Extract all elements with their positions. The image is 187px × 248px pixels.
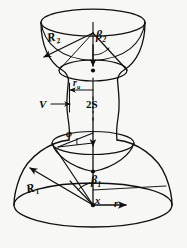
- label-beta1: β1: [91, 174, 101, 186]
- origin-horizontal-reference: [93, 186, 166, 190]
- lower-generator-a: [55, 148, 93, 205]
- label-phi: φ: [65, 129, 72, 140]
- R1-radius-arrow: [30, 168, 93, 205]
- label-R2: R2: [46, 30, 60, 45]
- label-beta2: β2: [96, 29, 106, 41]
- label-R1: R1: [25, 181, 40, 196]
- label-V: V: [39, 99, 46, 110]
- figure-drawing: [0, 0, 187, 248]
- label-r-axis: r: [114, 199, 118, 210]
- label-r-u: ru: [73, 79, 80, 89]
- beta2-angle-arc: [93, 48, 109, 55]
- upper-generator-left: [59, 33, 93, 70]
- meniscus-geometry-figure: R2 β2 ru V 2S φ R1 β1 x r: [0, 0, 187, 248]
- label-x-axis: x: [95, 196, 100, 207]
- label-2S: 2S: [86, 99, 98, 110]
